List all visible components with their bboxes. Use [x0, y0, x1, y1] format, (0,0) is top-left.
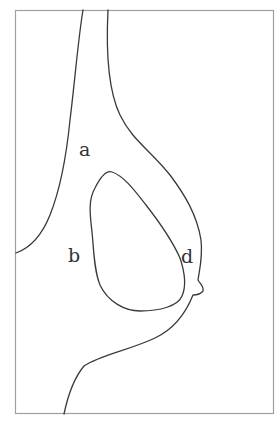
contour-diagram: a b d — [0, 0, 278, 435]
label-a: a — [79, 138, 90, 160]
label-b: b — [68, 244, 80, 266]
diagram-frame — [16, 11, 274, 414]
left-boundary-curve — [16, 10, 83, 253]
label-d: d — [181, 245, 193, 267]
right-boundary-curve — [64, 10, 203, 414]
inner-closed-contour — [90, 172, 185, 311]
